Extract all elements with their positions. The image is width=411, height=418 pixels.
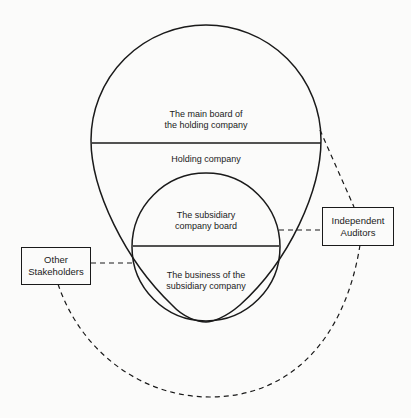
independent-auditors-box: Independent Auditors: [322, 207, 394, 246]
stakeholders-label-line2: Stakeholders: [28, 266, 83, 278]
subsidiary-business-label-line1: The business of the: [146, 270, 266, 281]
other-stakeholders-box: Other Stakeholders: [21, 247, 91, 285]
auditors-label-line1: Independent: [332, 215, 385, 227]
stakeholders-label-line1: Other: [44, 254, 68, 266]
subsidiary-circle: [132, 173, 280, 321]
subsidiary-business-label-line2: subsidiary company: [146, 281, 266, 292]
diagram-canvas: The main board of the holding company Ho…: [0, 0, 411, 418]
holding-company-label: Holding company: [146, 154, 266, 165]
subsidiary-business-label: The business of the subsidiary company: [146, 270, 266, 292]
main-board-label: The main board of the holding company: [146, 109, 266, 131]
auditors-label-line2: Auditors: [341, 227, 376, 239]
holding-company-label-text: Holding company: [146, 154, 266, 165]
subsidiary-board-label-line2: company board: [146, 221, 266, 232]
subsidiary-board-label: The subsidiary company board: [146, 210, 266, 232]
auditors-to-main-board-connector: [320, 130, 354, 207]
main-board-label-line2: the holding company: [146, 120, 266, 131]
main-board-label-line1: The main board of: [146, 109, 266, 120]
subsidiary-board-label-line1: The subsidiary: [146, 210, 266, 221]
